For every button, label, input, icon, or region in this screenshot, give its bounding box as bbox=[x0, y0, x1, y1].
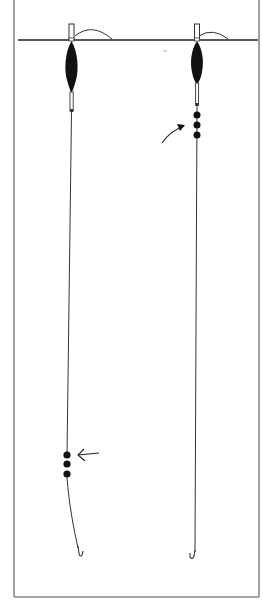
left-hooklength bbox=[67, 477, 78, 548]
right-arrow-icon bbox=[162, 124, 185, 143]
left-hook-icon bbox=[78, 546, 83, 556]
right-float-body bbox=[191, 41, 203, 84]
left-split-shot bbox=[63, 470, 70, 477]
left-arrow-icon bbox=[78, 449, 99, 461]
left-float-stem bbox=[70, 92, 73, 111]
right-rig bbox=[162, 24, 228, 558]
right-float-antenna bbox=[195, 24, 200, 40]
right-float-stem bbox=[196, 83, 199, 105]
frame bbox=[14, 0, 259, 597]
left-split-shot bbox=[63, 451, 70, 458]
right-split-shot bbox=[194, 132, 201, 139]
right-fishing-line bbox=[195, 106, 197, 552]
left-rig bbox=[63, 24, 112, 556]
float-rig-diagram bbox=[0, 0, 263, 615]
left-float-antenna bbox=[69, 24, 74, 40]
right-line-arc bbox=[199, 32, 228, 39]
left-float-body bbox=[65, 41, 77, 93]
left-fishing-line bbox=[67, 112, 72, 456]
right-split-shot bbox=[194, 122, 201, 129]
left-split-shot bbox=[63, 460, 70, 467]
left-line-arc bbox=[75, 30, 112, 39]
right-split-shot bbox=[194, 112, 201, 119]
right-hook-icon bbox=[190, 550, 195, 558]
